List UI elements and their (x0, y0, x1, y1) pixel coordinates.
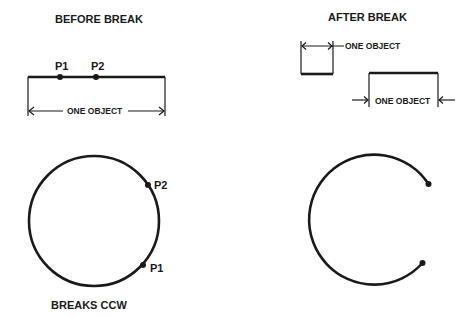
dimension-label-2: ONE OBJECT (375, 96, 431, 106)
point-p1 (57, 74, 63, 80)
p1-label: P1 (55, 60, 68, 72)
broken-arc (309, 155, 428, 285)
before-line-group: P1 P2 ONE OBJECT (28, 60, 165, 116)
circle-p1-label: P1 (150, 262, 163, 274)
break-diagram: BEFORE BREAK P1 P2 ONE OBJECT AFTER BREA… (0, 0, 469, 317)
dimension-label: ONE OBJECT (67, 106, 123, 116)
circle-p2-label: P2 (154, 179, 167, 191)
before-break-title: BEFORE BREAK (55, 13, 143, 25)
circle-point-p2 (145, 182, 151, 188)
circle-point-p1 (140, 262, 146, 268)
full-circle (29, 156, 159, 286)
p2-label: P2 (91, 60, 104, 72)
breaks-ccw-caption: BREAKS CCW (51, 299, 127, 311)
after-segment-1: ONE OBJECT (301, 41, 401, 74)
full-circle-group: P2 P1 BREAKS CCW (29, 156, 167, 311)
point-p2 (93, 74, 99, 80)
arc-group (309, 155, 431, 285)
after-break-title: AFTER BREAK (328, 11, 407, 23)
arc-endpoint-top (426, 181, 432, 187)
after-segment-2: ONE OBJECT (352, 73, 455, 107)
dimension-label-1: ONE OBJECT (345, 41, 401, 51)
arc-endpoint-bottom (420, 260, 426, 266)
